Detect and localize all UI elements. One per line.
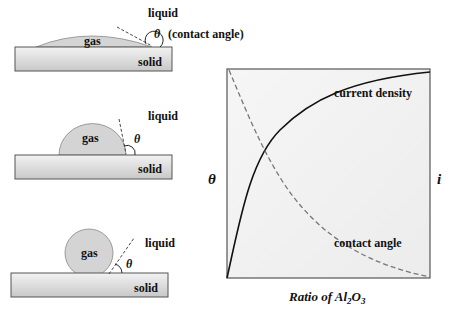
y-axis-right-label: i	[437, 171, 442, 187]
panel-high-angle: gas liquid solid θ	[11, 229, 175, 297]
current-density-label: current density	[334, 86, 412, 100]
solid-label: solid	[138, 162, 162, 176]
theta-label: θ	[134, 132, 141, 146]
gas-label: gas	[84, 34, 101, 48]
solid-label: solid	[138, 55, 162, 69]
gas-label: gas	[82, 131, 99, 145]
chart: current density contact angle θ i Ratio …	[208, 69, 442, 306]
liquid-label: liquid	[148, 109, 178, 123]
gas-label: gas	[81, 246, 98, 260]
x-axis-label: Ratio of Al2O3	[288, 289, 366, 306]
liquid-label: liquid	[148, 6, 178, 20]
theta-label: θ	[154, 27, 161, 41]
panel-mid-angle: gas liquid solid θ	[15, 109, 178, 179]
contact-angle-label: contact angle	[334, 236, 402, 250]
liquid-label: liquid	[145, 236, 175, 250]
theta-label: θ	[126, 257, 133, 271]
y-axis-left-label: θ	[208, 171, 216, 187]
solid-label: solid	[134, 281, 158, 295]
contact-angle-annotation: (contact angle)	[168, 27, 244, 41]
figure: gas liquid solid θ (contact angle) gas l…	[0, 0, 454, 316]
angle-arc	[115, 264, 122, 273]
panel-low-angle: gas liquid solid θ (contact angle)	[15, 6, 244, 71]
